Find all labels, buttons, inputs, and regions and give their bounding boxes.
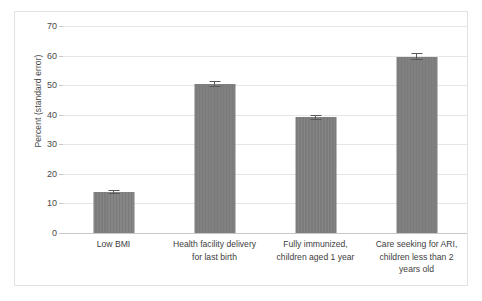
y-axis-tick-mark <box>59 233 63 234</box>
y-axis-tick-label: 10 <box>47 198 57 208</box>
error-bar-cap-bottom <box>411 59 422 60</box>
y-axis-title: Percent (standard error) <box>33 16 43 186</box>
y-axis-tick-label: 30 <box>47 139 57 149</box>
bar-slot <box>265 26 366 233</box>
bar[interactable] <box>93 192 134 233</box>
y-axis-tick-label: 40 <box>47 110 57 120</box>
x-axis-category-label-line: Health facility delivery <box>164 238 265 251</box>
y-axis-tick-label: 0 <box>52 228 57 238</box>
error-bar <box>209 81 220 86</box>
y-axis-tick-label: 20 <box>47 169 57 179</box>
bar[interactable] <box>295 117 336 233</box>
x-axis-category-label-line: children less than 2 <box>366 251 467 264</box>
chart-frame: Percent (standard error) 010203040506070… <box>14 11 468 286</box>
error-bar <box>411 53 422 60</box>
error-bar-cap-top <box>108 190 119 191</box>
chart-figure: Percent (standard error) 010203040506070… <box>0 0 482 301</box>
y-axis-tick-label: 70 <box>47 21 57 31</box>
x-axis-line <box>63 233 467 234</box>
error-bar-cap-bottom <box>310 119 321 120</box>
x-axis-category-label: Low BMI <box>63 238 164 251</box>
bar-slot <box>164 26 265 233</box>
plot-area: 010203040506070 <box>63 26 467 233</box>
x-axis-category-label-line: years old <box>366 263 467 276</box>
x-axis-category-labels: Low BMIHealth facility deliveryfor last … <box>63 238 467 286</box>
bar[interactable] <box>194 84 235 233</box>
x-axis-category-label: Fully immunized,children aged 1 year <box>265 238 366 263</box>
y-axis-tick-label: 50 <box>47 80 57 90</box>
x-axis-category-label: Care seeking for ARI,children less than … <box>366 238 467 276</box>
error-bar <box>108 190 119 194</box>
x-axis-category-label-line: children aged 1 year <box>265 251 366 264</box>
error-bar <box>310 115 321 120</box>
bar[interactable] <box>396 57 437 233</box>
error-bar-cap-top <box>310 115 321 116</box>
x-axis-category-label-line: Care seeking for ARI, <box>366 238 467 251</box>
bar-slot <box>366 26 467 233</box>
x-axis-category-label-line: for last birth <box>164 251 265 264</box>
error-bar-cap-bottom <box>108 193 119 194</box>
error-bar-cap-bottom <box>209 86 220 87</box>
y-axis-tick-label: 60 <box>47 51 57 61</box>
error-bar-cap-top <box>411 53 422 54</box>
x-axis-category-label: Health facility deliveryfor last birth <box>164 238 265 263</box>
x-axis-category-label-line: Fully immunized, <box>265 238 366 251</box>
bar-slot <box>63 26 164 233</box>
x-axis-category-label-line: Low BMI <box>63 238 164 251</box>
error-bar-cap-top <box>209 81 220 82</box>
